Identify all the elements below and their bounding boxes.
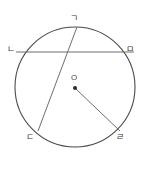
point-label-digeut: ㄷ	[26, 133, 34, 142]
radius-center-rieul	[76, 89, 120, 131]
center-point-label: O	[71, 74, 77, 82]
point-label-rieul: ㄹ	[116, 133, 124, 142]
geometry-canvas	[0, 0, 148, 185]
geometry-figure: O ㄱ ㄴ ㅁ ㄷ ㄹ	[0, 0, 148, 185]
center-point-dot	[73, 86, 77, 90]
point-label-mieum: ㅁ	[126, 45, 134, 54]
point-label-giyeok: ㄱ	[70, 14, 78, 23]
point-label-nieun: ㄴ	[7, 45, 15, 54]
